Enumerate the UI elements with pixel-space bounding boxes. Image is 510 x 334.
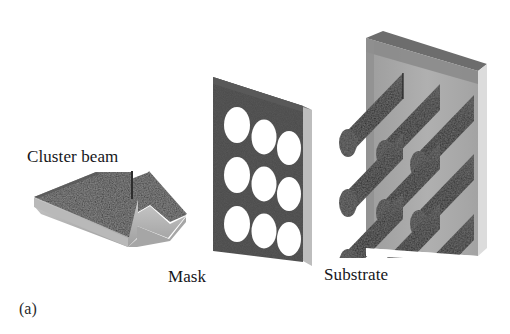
mask-hole xyxy=(252,214,277,249)
mask-hole xyxy=(277,222,301,256)
mask-hole xyxy=(277,131,301,165)
mask-hole xyxy=(277,177,301,211)
mask-hole xyxy=(252,120,277,155)
mask-hole xyxy=(252,167,277,202)
figure-panel-a: Cluster beam Mask Substrate (a) xyxy=(0,0,510,334)
label-substrate: Substrate xyxy=(324,266,388,284)
figure-illustration xyxy=(0,0,510,334)
label-cluster-beam: Cluster beam xyxy=(27,148,118,166)
mask-plate xyxy=(213,77,312,266)
substrate-plate xyxy=(330,31,510,334)
label-mask: Mask xyxy=(168,268,206,286)
cluster-beam-arrow xyxy=(34,171,187,247)
mask-hole xyxy=(224,157,250,193)
mask-hole xyxy=(224,107,250,143)
mask-hole xyxy=(224,206,250,242)
figure-caption: (a) xyxy=(19,300,37,318)
